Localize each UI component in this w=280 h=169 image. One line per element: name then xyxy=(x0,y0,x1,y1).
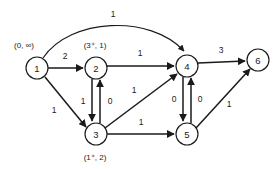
node-5-label: 5 xyxy=(184,129,189,140)
flow-network-diagram: 121110113001 1(0, ∞)2(3⁺, 1)3(1⁺, 2)456 xyxy=(0,0,280,169)
node-1[interactable]: 1(0, ∞) xyxy=(14,41,48,80)
edge-3-2-weight: 0 xyxy=(108,96,113,106)
diagram-canvas: 121110113001 1(0, ∞)2(3⁺, 1)3(1⁺, 2)456 xyxy=(0,0,280,169)
node-1-tag: (0, ∞) xyxy=(14,41,34,50)
edge-2-3: 1 xyxy=(81,79,92,121)
edge-2-3-weight: 1 xyxy=(81,96,86,106)
node-6[interactable]: 6 xyxy=(247,49,269,71)
node-3-tag: (1⁺, 2) xyxy=(84,153,107,162)
edge-3-5-weight: 1 xyxy=(139,117,144,127)
node-3[interactable]: 3(1⁺, 2) xyxy=(84,123,107,162)
node-2-label: 2 xyxy=(93,63,98,74)
edge-5-6: 1 xyxy=(196,69,250,128)
node-2[interactable]: 2(3⁺, 1) xyxy=(84,41,107,80)
edge-2-4-weight: 1 xyxy=(138,48,143,58)
edge-5-4: 0 xyxy=(191,78,203,123)
node-1-label: 1 xyxy=(34,63,39,74)
edges-layer: 121110113001 xyxy=(43,9,250,134)
edge-4-6-weight: 3 xyxy=(219,45,224,55)
edge-4-5: 0 xyxy=(172,77,183,121)
node-2-tag: (3⁺, 1) xyxy=(84,41,107,50)
edge-4-6-path xyxy=(198,61,245,63)
node-5[interactable]: 5 xyxy=(176,123,198,145)
edge-1-2-weight: 2 xyxy=(63,51,68,61)
node-3-label: 3 xyxy=(93,129,98,140)
node-6-label: 6 xyxy=(255,55,260,66)
edge-5-6-path xyxy=(196,69,250,128)
node-4[interactable]: 4 xyxy=(176,55,198,77)
edge-4-6: 3 xyxy=(198,45,245,63)
edge-2-4: 1 xyxy=(107,48,174,66)
edge-1-3-weight: 1 xyxy=(52,105,57,115)
edge-5-4-weight: 0 xyxy=(198,94,203,104)
edge-5-6-weight: 1 xyxy=(227,99,232,109)
edge-1-4-arc-weight: 1 xyxy=(111,9,116,19)
edge-3-4-weight: 1 xyxy=(132,85,137,95)
edge-4-5-weight: 0 xyxy=(172,94,177,104)
edge-1-2: 2 xyxy=(48,51,83,68)
node-4-label: 4 xyxy=(184,61,189,72)
edge-3-2: 0 xyxy=(100,80,113,123)
